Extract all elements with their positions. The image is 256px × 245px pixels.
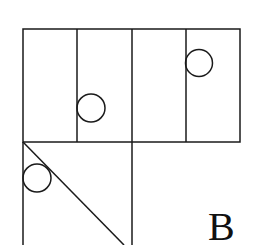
diagonal-line	[23, 142, 124, 245]
figure-label: B	[208, 207, 235, 245]
circle-cell-4	[186, 50, 213, 77]
circle-cell-2	[77, 94, 105, 122]
circle-bottom-square	[23, 164, 51, 192]
